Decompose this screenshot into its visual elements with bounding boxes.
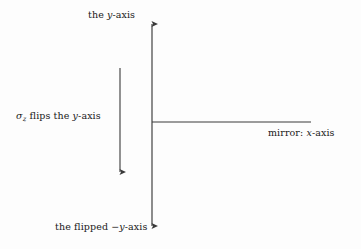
label-mirror-x-axis: mirror: x-axis — [268, 128, 335, 139]
sigma-symbol: σ — [16, 110, 23, 121]
diagram-svg — [0, 0, 361, 249]
label-flipped-y-axis: the flipped −y-axis — [55, 222, 147, 233]
label-flipped-suffix: -axis — [125, 221, 148, 232]
label-y-axis-top-suffix: -axis — [112, 9, 135, 20]
label-mirror-prefix: mirror: — [268, 127, 306, 138]
figure-canvas: the y-axis σz flips the y-axis mirror: x… — [0, 0, 361, 249]
label-mirror-suffix: -axis — [312, 127, 335, 138]
label-sigma-flips-y-axis: σz flips the y-axis — [16, 111, 101, 123]
label-sigma-flips-suffix: -axis — [78, 110, 101, 121]
label-y-axis-top-prefix: the — [88, 9, 107, 20]
label-flipped-prefix: the flipped — [55, 221, 111, 232]
label-sigma-flips-text: flips the — [26, 110, 72, 121]
label-y-axis-top: the y-axis — [88, 10, 135, 21]
